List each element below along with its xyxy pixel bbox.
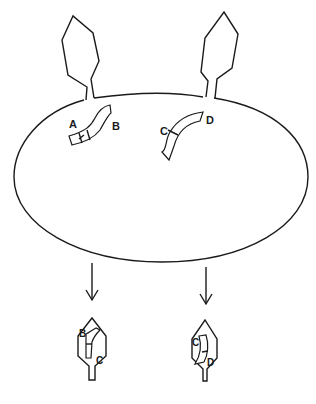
transduction-diagram: A B C D B C C D: [0, 0, 316, 404]
right-arrow-icon: [200, 267, 212, 304]
label-d-progeny-right: D: [207, 357, 214, 368]
left-phage-icon: [62, 16, 99, 100]
fragment-ab: A B: [69, 105, 120, 145]
progeny-right-phage-icon: C D: [192, 320, 217, 381]
label-a: A: [69, 118, 77, 130]
bacterial-cell: [14, 93, 308, 262]
progeny-left-phage-icon: B C: [78, 318, 106, 380]
label-c-progeny: C: [96, 355, 103, 366]
label-b-progeny: B: [79, 328, 86, 339]
fragment-cd: C D: [160, 112, 214, 160]
label-c: C: [160, 125, 168, 137]
left-arrow-icon: [86, 263, 98, 300]
right-phage-icon: [201, 12, 238, 98]
label-c-progeny-right: C: [192, 337, 199, 348]
label-d: D: [206, 114, 214, 126]
label-b: B: [112, 120, 120, 132]
